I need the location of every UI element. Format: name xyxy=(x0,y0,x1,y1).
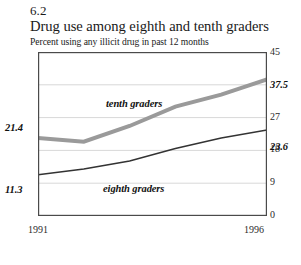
plot-area xyxy=(38,52,267,216)
eighth-start-value: 11.3 xyxy=(5,184,22,195)
eighth-end-value: 23.6 xyxy=(270,141,288,152)
y-tick-45: 45 xyxy=(270,47,280,57)
plot-frame xyxy=(39,53,267,216)
line-chart-svg xyxy=(38,52,267,216)
figure-subtitle: Percent using any illicit drug in past 1… xyxy=(30,36,209,47)
y-tick-27: 27 xyxy=(270,112,280,122)
data-series-group xyxy=(38,79,267,174)
series-line-tenth-graders xyxy=(38,79,267,141)
y-tick-9: 9 xyxy=(270,177,275,187)
figure-number: 6.2 xyxy=(30,4,47,18)
tenth-start-value: 21.4 xyxy=(5,122,23,133)
figure-container: 6.2 Drug use among eighth and tenth grad… xyxy=(0,0,301,265)
figure-title: Drug use among eighth and tenth graders xyxy=(30,18,269,34)
gridlines xyxy=(38,85,267,183)
x-tick-1996: 1996 xyxy=(244,224,264,235)
tenth-end-value: 37.5 xyxy=(270,79,288,90)
y-tick-0: 0 xyxy=(270,210,275,220)
x-tick-1991: 1991 xyxy=(28,224,48,235)
series-line-eighth-graders xyxy=(38,130,267,175)
